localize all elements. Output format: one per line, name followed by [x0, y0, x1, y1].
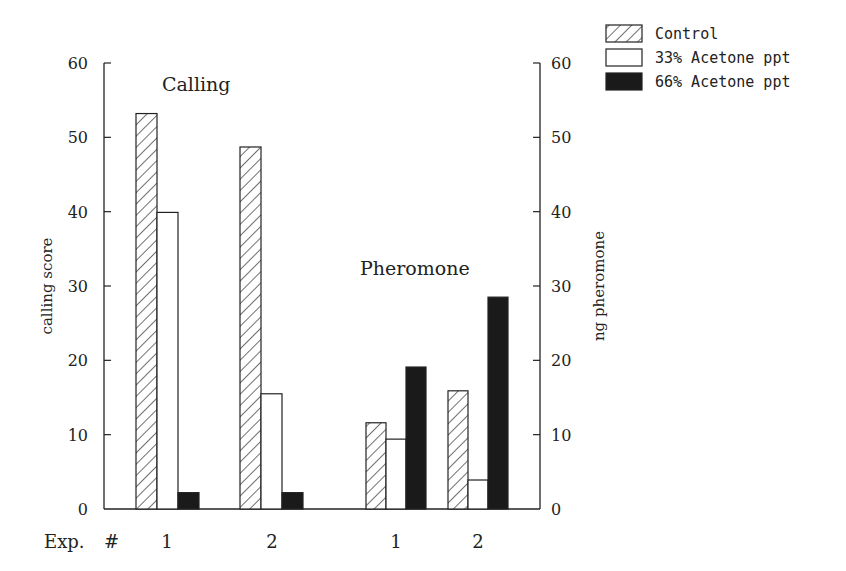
- y-tick-right: 10: [551, 426, 571, 445]
- y-tick-left: 60: [68, 54, 88, 73]
- y-axis-title-left: calling score: [38, 237, 56, 334]
- legend-label-66: 66% Acetone ppt: [655, 73, 790, 91]
- x-tick-pheromone-1: 1: [390, 531, 401, 552]
- bar-pheromone-2-white: [468, 480, 488, 509]
- bar-pheromone-2-black: [488, 297, 508, 509]
- y-tick-right: 30: [551, 277, 571, 296]
- y-tick-left: 0: [78, 500, 88, 519]
- bar-calling-2-hatched: [240, 147, 261, 509]
- bars: [136, 114, 508, 509]
- bar-pheromone-1-black: [406, 367, 426, 509]
- annotation-calling: Calling: [162, 73, 231, 95]
- bar-calling-2-black: [282, 493, 303, 509]
- y-tick-right: 50: [551, 128, 571, 147]
- y-axis-title-right: ng pheromone: [590, 231, 608, 341]
- x-label-hash: #: [104, 531, 119, 552]
- annotation-pheromone: Pheromone: [360, 257, 470, 279]
- bar-calling-1-black: [178, 493, 199, 509]
- x-tick-pheromone-2: 2: [472, 531, 483, 552]
- y-tick-left: 50: [68, 128, 88, 147]
- legend-label-control: Control: [655, 25, 718, 43]
- x-label-exp: Exp.: [44, 531, 85, 552]
- y-tick-left: 40: [68, 203, 88, 222]
- bar-pheromone-2-hatched: [448, 391, 468, 509]
- y-tick-right: 0: [551, 500, 561, 519]
- bar-calling-1-hatched: [136, 114, 157, 509]
- legend-swatch-33: [606, 49, 642, 66]
- y-tick-right: 60: [551, 54, 571, 73]
- x-tick-calling-1: 1: [161, 531, 172, 552]
- bar-calling-1-white: [157, 212, 178, 509]
- bar-pheromone-1-white: [386, 439, 406, 509]
- bar-calling-2-white: [261, 394, 282, 509]
- legend-label-33: 33% Acetone ppt: [655, 49, 790, 67]
- chart: 0102030405060 0102030405060 calling scor…: [0, 0, 846, 571]
- right-y-axis: 0102030405060: [533, 54, 571, 519]
- bar-pheromone-1-hatched: [366, 423, 386, 509]
- x-tick-calling-2: 2: [266, 531, 277, 552]
- y-tick-left: 10: [68, 426, 88, 445]
- y-tick-right: 40: [551, 203, 571, 222]
- y-tick-right: 20: [551, 351, 571, 370]
- legend-swatch-control: [606, 25, 642, 42]
- y-tick-left: 20: [68, 351, 88, 370]
- legend-swatch-66: [606, 73, 642, 90]
- legend: Control 33% Acetone ppt 66% Acetone ppt: [606, 25, 790, 91]
- y-tick-left: 30: [68, 277, 88, 296]
